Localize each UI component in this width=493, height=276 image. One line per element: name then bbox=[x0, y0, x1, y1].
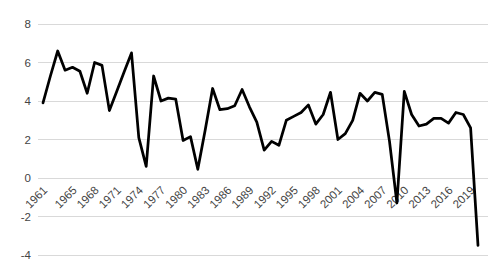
y-axis-tick-label: 8 bbox=[25, 18, 31, 30]
chart-background bbox=[0, 0, 493, 276]
y-axis-tick-label: 0 bbox=[25, 172, 31, 184]
y-axis-tick-label: 4 bbox=[25, 95, 32, 107]
y-axis-tick-label: 2 bbox=[25, 134, 31, 146]
chart-canvas: 86420-2-41961196519681971197419771980198… bbox=[0, 0, 493, 276]
growth-rate-line-chart: 86420-2-41961196519681971197419771980198… bbox=[0, 0, 493, 276]
y-axis-tick-label: -4 bbox=[21, 249, 32, 261]
y-axis-tick-label: 6 bbox=[25, 57, 31, 69]
y-axis-tick-label: -2 bbox=[21, 211, 31, 223]
